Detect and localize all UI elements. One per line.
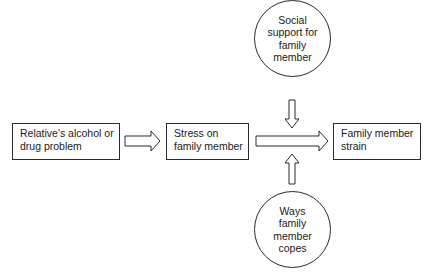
arrow-stress-to-strain (256, 131, 328, 151)
arrow-coping-up (285, 154, 299, 184)
node-relative-problem-line1: Relative's alcohol or (20, 127, 119, 140)
node-strain-line1: Family member (341, 127, 420, 140)
node-coping: Ways family member copes (254, 191, 331, 268)
node-social-support-text: Social support for family member (267, 14, 317, 64)
node-stress-line2: family member (174, 140, 248, 153)
node-relative-problem-line2: drug problem (20, 140, 119, 153)
node-stress: Stress on family member (166, 123, 249, 160)
arrow-social-support-down (285, 100, 299, 128)
node-relative-problem: Relative's alcohol or drug problem (12, 123, 120, 160)
node-stress-line1: Stress on (174, 127, 248, 140)
node-strain: Family member strain (333, 123, 421, 160)
node-coping-text: Ways family member copes (273, 205, 312, 255)
arrow-relative-to-stress (125, 131, 160, 151)
node-social-support: Social support for family member (254, 0, 331, 77)
node-strain-line2: strain (341, 140, 420, 153)
